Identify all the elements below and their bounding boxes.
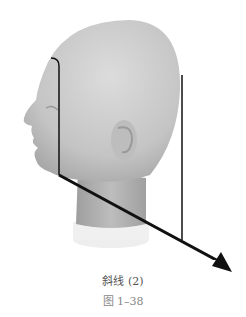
- figure-title: 斜线 (2): [0, 272, 246, 288]
- arrow-icon: [0, 0, 246, 317]
- figure-number: 图 1–38: [0, 292, 246, 308]
- figure-illustration: [0, 0, 246, 260]
